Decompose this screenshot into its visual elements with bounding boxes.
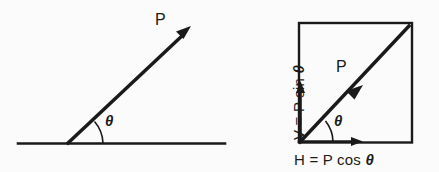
right-resultant-vector-arrowhead bbox=[346, 85, 363, 100]
right-resultant-vector-shaft bbox=[300, 26, 409, 142]
vector-resolution-figure: P θ P θ V = P sin θ H = P cos θ bbox=[0, 0, 439, 172]
horizontal-component-label: H = P cos θ bbox=[294, 152, 374, 167]
vertical-component-label: V = P sin θ bbox=[291, 65, 306, 140]
left-vector-label: P bbox=[155, 12, 166, 28]
left-force-vector-arrowhead bbox=[176, 26, 191, 39]
vertical-component-symbol: V bbox=[290, 130, 307, 140]
diagram-canvas bbox=[0, 0, 439, 172]
left-force-vector-shaft bbox=[68, 36, 182, 143]
left-diagram-group bbox=[18, 26, 225, 144]
vertical-component-equals: = bbox=[290, 116, 307, 125]
left-angle-label: θ bbox=[105, 113, 113, 128]
left-angle-arc bbox=[95, 122, 104, 144]
right-diagram-group bbox=[296, 23, 412, 146]
right-vector-label: P bbox=[336, 59, 347, 75]
horizontal-component-expression: P cos bbox=[323, 151, 366, 168]
right-angle-arc bbox=[326, 121, 334, 142]
right-angle-label: θ bbox=[334, 113, 342, 128]
horizontal-component-equals: = bbox=[309, 151, 318, 168]
horizontal-component-angle: θ bbox=[365, 151, 374, 168]
vertical-component-expression: P sin bbox=[290, 74, 307, 112]
horizontal-component-symbol: H bbox=[294, 151, 305, 168]
vertical-component-angle: θ bbox=[290, 65, 307, 74]
horizontal-component-arrowhead bbox=[351, 137, 363, 146]
